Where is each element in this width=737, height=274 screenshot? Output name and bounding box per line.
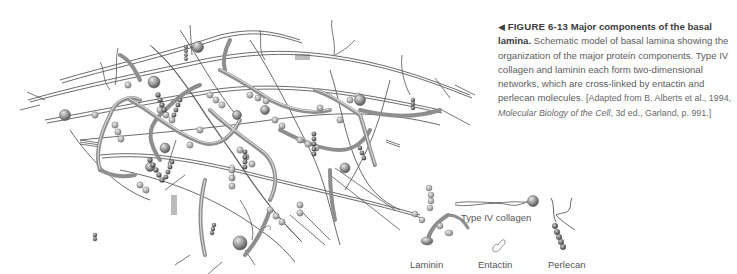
legend-label-type-iv-collagen: Type IV collagen [461, 212, 531, 223]
figure-pointer-icon: ◀ [498, 22, 505, 32]
legend-perlecan-glyph [551, 198, 575, 250]
legend-collagen-glyph [455, 196, 539, 207]
citation-book-title: Molecular Biology of the Cell [498, 108, 610, 118]
legend-label-perlecan: Perlecan [548, 259, 586, 270]
laminin-network [98, 40, 440, 255]
legend-label-entactin: Entactin [478, 259, 512, 270]
figure-number: FIGURE 6-13 [508, 21, 568, 32]
legend-entactin-glyph [493, 240, 505, 252]
legend-laminin-glyph [412, 185, 468, 245]
citation-suffix: , 3d ed., Garland, p. 991.] [610, 108, 711, 118]
laminin-highlights [98, 69, 375, 255]
legend-label-laminin: Laminin [410, 259, 443, 270]
fiber-ends [20, 20, 475, 274]
citation-prefix: [Adapted from B. Alberts et al., 1994, [586, 93, 731, 103]
figure-caption: ◀ FIGURE 6-13 Major components of the ba… [498, 20, 736, 120]
